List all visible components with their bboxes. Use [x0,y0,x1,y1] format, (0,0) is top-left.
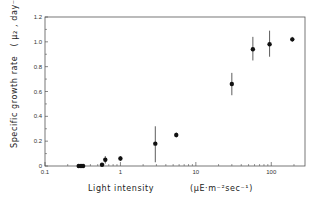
data-point [153,141,157,145]
data-point [267,42,271,46]
y-tick-label: 1.0 [34,39,43,45]
data-point [230,82,234,86]
x-tick-label: 1 [119,169,123,175]
data-point [81,164,85,168]
data-point [290,37,294,41]
plot-frame [45,17,305,166]
y-tick-label: 0.8 [34,64,43,70]
y-axis-label: Specific growth rate ( μ₂ , day⁻¹ ) [10,0,19,148]
y-tick-label: 0.4 [34,113,43,119]
x-axis-label: Light intensity [88,184,154,193]
x-tick-label: 100 [266,169,277,175]
y-tick-label: 0.2 [34,138,43,144]
x-tick-label: 0.1 [41,169,50,175]
data-point [251,47,255,51]
x-axis-units: (μE·m⁻²sec⁻¹) [190,184,253,193]
y-axis-ticks: 00.20.40.60.81.01.2 [34,14,48,169]
y-tick-label: 1.2 [34,14,43,20]
y-axis-label-text: Specific growth rate [10,56,19,148]
x-tick-label: 10 [193,169,200,175]
y-axis-units: ( μ₂ , day⁻¹ ) [10,0,19,47]
y-tick-label: 0.6 [34,89,43,95]
growth-rate-chart: 00.20.40.60.81.01.2 0.1110100 Light inte… [0,0,314,202]
data-point [174,133,178,137]
data-point [118,156,122,160]
data-point [100,163,104,167]
data-point [103,158,107,162]
data-points [77,31,295,169]
